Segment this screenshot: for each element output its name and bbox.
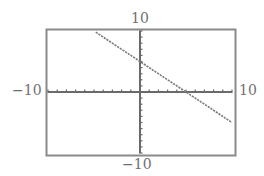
ymax-label: 10 bbox=[131, 11, 149, 25]
xmin-label: −10 bbox=[12, 83, 42, 97]
y-axis bbox=[139, 31, 143, 153]
xmax-label: 10 bbox=[239, 83, 257, 97]
ymin-label: −10 bbox=[122, 157, 152, 171]
function-line bbox=[96, 32, 232, 122]
